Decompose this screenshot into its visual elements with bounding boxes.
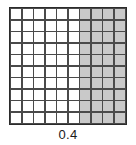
grid-cell-shaded bbox=[115, 67, 125, 77]
grid-cell-empty bbox=[46, 113, 56, 123]
grid-cell-empty bbox=[57, 90, 67, 100]
hundredths-grid bbox=[9, 7, 127, 125]
grid-cell-empty bbox=[23, 55, 33, 65]
grid-cell-empty bbox=[23, 90, 33, 100]
grid-cell-shaded bbox=[115, 21, 125, 31]
grid-cell-empty bbox=[23, 32, 33, 42]
grid-cell-shaded bbox=[103, 90, 113, 100]
grid-cell-empty bbox=[11, 44, 21, 54]
grid-cell-shaded bbox=[103, 44, 113, 54]
grid-cell-shaded bbox=[115, 113, 125, 123]
grid-cell-empty bbox=[46, 78, 56, 88]
grid-cell-empty bbox=[57, 44, 67, 54]
grid-cell-shaded bbox=[80, 9, 90, 19]
grid-cell-empty bbox=[23, 113, 33, 123]
grid-cell-empty bbox=[46, 67, 56, 77]
grid-cell-empty bbox=[46, 90, 56, 100]
grid-cell-shaded bbox=[92, 90, 102, 100]
grid-cell-shaded bbox=[80, 101, 90, 111]
grid-cell-empty bbox=[69, 55, 79, 65]
grid-cell-empty bbox=[69, 67, 79, 77]
grid-cell-shaded bbox=[103, 101, 113, 111]
grid-cell-shaded bbox=[103, 55, 113, 65]
grid-cell-empty bbox=[69, 113, 79, 123]
grid-cell-empty bbox=[46, 9, 56, 19]
grid-cell-empty bbox=[34, 44, 44, 54]
grid-cell-empty bbox=[57, 67, 67, 77]
grid-cell-shaded bbox=[80, 67, 90, 77]
grid-container bbox=[9, 7, 127, 125]
grid-cell-empty bbox=[57, 9, 67, 19]
grid-cell-empty bbox=[69, 9, 79, 19]
grid-cell-empty bbox=[57, 113, 67, 123]
grid-cell-empty bbox=[34, 90, 44, 100]
grid-cell-empty bbox=[46, 32, 56, 42]
grid-cell-empty bbox=[69, 78, 79, 88]
grid-cell-empty bbox=[11, 55, 21, 65]
grid-cell-shaded bbox=[92, 9, 102, 19]
grid-cell-shaded bbox=[80, 113, 90, 123]
grid-cell-empty bbox=[23, 101, 33, 111]
grid-cell-empty bbox=[23, 9, 33, 19]
grid-cell-empty bbox=[46, 101, 56, 111]
grid-cell-shaded bbox=[115, 44, 125, 54]
grid-cell-empty bbox=[11, 113, 21, 123]
grid-cell-empty bbox=[11, 21, 21, 31]
grid-cell-shaded bbox=[103, 78, 113, 88]
grid-cell-empty bbox=[34, 78, 44, 88]
grid-cell-empty bbox=[34, 101, 44, 111]
grid-cell-shaded bbox=[80, 32, 90, 42]
grid-cell-empty bbox=[11, 101, 21, 111]
grid-cell-shaded bbox=[92, 78, 102, 88]
grid-cell-empty bbox=[69, 21, 79, 31]
grid-cell-shaded bbox=[115, 32, 125, 42]
grid-cell-empty bbox=[69, 32, 79, 42]
grid-cell-shaded bbox=[92, 21, 102, 31]
grid-cell-empty bbox=[57, 21, 67, 31]
grid-cell-empty bbox=[69, 101, 79, 111]
grid-cell-empty bbox=[11, 78, 21, 88]
grid-cell-empty bbox=[11, 90, 21, 100]
grid-cell-empty bbox=[46, 44, 56, 54]
grid-cell-empty bbox=[57, 32, 67, 42]
grid-cell-empty bbox=[11, 9, 21, 19]
grid-cell-shaded bbox=[115, 101, 125, 111]
grid-cell-empty bbox=[34, 55, 44, 65]
grid-cell-empty bbox=[11, 67, 21, 77]
grid-cell-shaded bbox=[115, 90, 125, 100]
grid-cell-empty bbox=[69, 90, 79, 100]
grid-cell-empty bbox=[46, 21, 56, 31]
decimal-grid-figure: 0.4 bbox=[0, 0, 136, 145]
grid-cell-shaded bbox=[115, 9, 125, 19]
grid-cell-empty bbox=[34, 21, 44, 31]
grid-cell-empty bbox=[11, 32, 21, 42]
grid-cell-shaded bbox=[115, 78, 125, 88]
grid-cell-empty bbox=[46, 55, 56, 65]
grid-cell-empty bbox=[57, 101, 67, 111]
grid-cell-empty bbox=[23, 44, 33, 54]
grid-cell-empty bbox=[23, 21, 33, 31]
grid-cell-empty bbox=[34, 32, 44, 42]
grid-cell-shaded bbox=[80, 90, 90, 100]
grid-cell-shaded bbox=[103, 67, 113, 77]
grid-cell-shaded bbox=[103, 32, 113, 42]
grid-cell-shaded bbox=[80, 55, 90, 65]
grid-cell-shaded bbox=[115, 55, 125, 65]
grid-cell-shaded bbox=[80, 44, 90, 54]
grid-cell-shaded bbox=[92, 44, 102, 54]
grid-cell-empty bbox=[57, 55, 67, 65]
grid-cell-shaded bbox=[92, 32, 102, 42]
grid-cell-shaded bbox=[80, 21, 90, 31]
grid-cell-shaded bbox=[92, 101, 102, 111]
grid-cell-empty bbox=[34, 113, 44, 123]
grid-cell-shaded bbox=[103, 21, 113, 31]
grid-cell-empty bbox=[57, 78, 67, 88]
grid-cell-shaded bbox=[92, 67, 102, 77]
grid-cell-shaded bbox=[103, 9, 113, 19]
grid-cell-empty bbox=[23, 67, 33, 77]
grid-cell-shaded bbox=[80, 78, 90, 88]
grid-cell-shaded bbox=[103, 113, 113, 123]
grid-cell-empty bbox=[34, 67, 44, 77]
grid-cell-empty bbox=[69, 44, 79, 54]
grid-cell-empty bbox=[34, 9, 44, 19]
